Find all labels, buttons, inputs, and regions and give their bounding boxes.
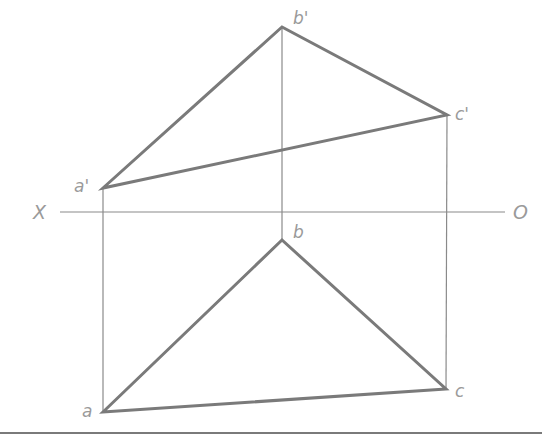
- triangle-front-view: [103, 27, 447, 188]
- label-c: c: [455, 383, 464, 400]
- label-b: b: [293, 224, 304, 241]
- projection-diagram: [0, 0, 542, 440]
- label-a-prime: a': [74, 178, 89, 195]
- label-b-prime: b': [293, 10, 308, 27]
- label-c-prime: c': [455, 106, 469, 123]
- axis-label-x: X: [33, 203, 46, 222]
- axis-label-o: O: [513, 203, 528, 222]
- triangle-top-view: [103, 240, 446, 412]
- label-a: a: [82, 403, 92, 420]
- projector-c: [446, 115, 447, 389]
